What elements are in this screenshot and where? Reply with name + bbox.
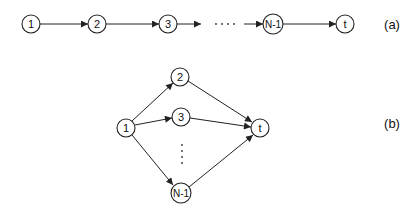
vertical-ellipsis-dots: [181, 144, 183, 164]
edge-3-to-t: [190, 118, 251, 127]
node-label: 1: [123, 122, 129, 134]
edge-2-to-t: [188, 81, 252, 122]
node-n-1: N-1: [263, 14, 283, 34]
node-label: N-1: [173, 188, 190, 199]
node-2: 2: [171, 68, 189, 86]
node-label: 1: [28, 18, 34, 30]
node-label: N-1: [265, 19, 282, 30]
panel-label-a: (a): [384, 17, 400, 32]
edge-1-to-n-1: [132, 135, 173, 185]
node-label: t: [343, 18, 346, 30]
node-3: 3: [172, 108, 190, 126]
node-n-1: N-1: [171, 183, 191, 203]
panel-b-parallel: 1 2 3 N-1 t (b): [117, 68, 400, 203]
node-3: 3: [159, 15, 177, 33]
node-label: 3: [178, 111, 184, 123]
edge-1-to-3: [135, 118, 172, 125]
panel-a-chain: 1 2 3 N-1 t (a): [22, 14, 400, 34]
network-diagram: 1 2 3 N-1 t (a): [0, 0, 419, 213]
node-1: 1: [117, 119, 135, 137]
edge-n-1-to-t: [189, 135, 253, 187]
node-label: 2: [94, 18, 100, 30]
node-1: 1: [22, 15, 40, 33]
ellipsis-dots: [215, 23, 235, 25]
node-2: 2: [88, 15, 106, 33]
edge-1-to-2: [132, 83, 173, 121]
panel-label-b: (b): [384, 116, 400, 131]
node-label: t: [258, 122, 261, 134]
node-t: t: [251, 119, 269, 137]
node-label: 2: [177, 71, 183, 83]
node-label: 3: [165, 18, 171, 30]
node-t: t: [336, 15, 354, 33]
